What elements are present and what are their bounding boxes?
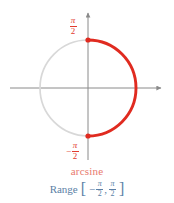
lower-bound-sign: − <box>66 146 71 156</box>
lower-bound-denominator: 2 <box>72 152 79 161</box>
lower-bound-sign-caption: − <box>89 181 95 197</box>
range-interval: − π 2 , π 2 <box>89 180 116 198</box>
lower-endpoint-dot <box>85 133 90 138</box>
upper-bound-label: π 2 <box>69 16 77 36</box>
range-lower-bound: π 2 <box>96 180 103 198</box>
bracket-close: ] <box>119 181 124 197</box>
range-lower-denominator: 2 <box>97 190 103 198</box>
upper-bound-numerator: π <box>70 16 77 25</box>
range-lower-numerator: π <box>97 180 103 188</box>
bracket-open: [ <box>81 181 86 197</box>
range-comma: , <box>104 181 107 197</box>
range-upper-numerator: π <box>110 180 116 188</box>
lower-bound-label: − π 2 <box>66 141 79 161</box>
upper-bound-denominator: 2 <box>70 27 77 36</box>
upper-endpoint-dot <box>85 37 90 42</box>
upper-bound-fraction: π 2 <box>70 16 77 36</box>
range-upper-denominator: 2 <box>110 190 116 198</box>
lower-bound-fraction: π 2 <box>72 141 79 161</box>
range-keyword: Range <box>50 181 78 197</box>
range-statement: Range [ − π 2 , π 2 ] <box>0 180 174 198</box>
range-upper-bound: π 2 <box>109 180 116 198</box>
arcsine-range-figure: π 2 − π 2 arcsine Range [ − π 2 , <box>0 0 174 203</box>
function-name: arcsine <box>0 164 174 178</box>
figure-caption: arcsine Range [ − π 2 , π 2 ] <box>0 164 174 198</box>
unit-circle-diagram <box>0 0 174 170</box>
lower-bound-numerator: π <box>72 141 79 150</box>
